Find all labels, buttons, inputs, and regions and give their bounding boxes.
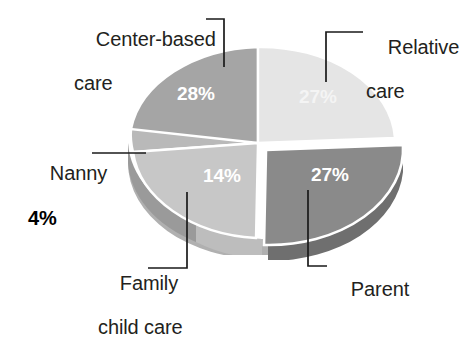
slice-label-nanny: Nanny 4% [28, 140, 107, 274]
slice-label-line2: care [74, 72, 216, 94]
slice-label-center-based-care: Center-based care [74, 6, 216, 138]
slice-label-line1: Parent [351, 278, 409, 300]
slice-label-line2: child care [98, 316, 183, 338]
slice-label-line1: Relative [388, 36, 459, 58]
slice-label-relative-care: Relative care [366, 14, 459, 146]
slice-value-family-child-care: 14% [203, 165, 241, 186]
slice-label-family-child-care: Family child care [98, 250, 183, 338]
pie-slice-family-child-care [133, 143, 258, 238]
slice-value-relative-care: 27% [299, 86, 337, 107]
slice-label-line1: Family [120, 272, 178, 294]
slice-label-line1: Center-based [96, 28, 216, 50]
slice-label-line1: Nanny [50, 162, 107, 184]
slice-value-parent: 27% [311, 164, 349, 185]
pie-slice-parent [264, 145, 403, 245]
slice-label-line2: care [366, 80, 459, 102]
slice-label-parent: Parent [329, 256, 409, 322]
slice-value-nanny: 4% [28, 206, 107, 230]
